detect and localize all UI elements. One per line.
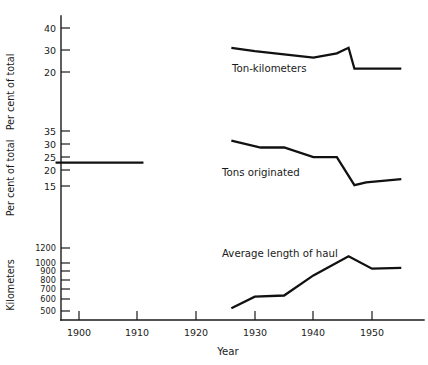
series-line-average-length-of-haul bbox=[231, 256, 401, 308]
y-tick-label-25: 25 bbox=[44, 152, 56, 163]
y-tick-label-20: 20 bbox=[44, 67, 56, 78]
x-tick-labels: 1900 1910 1920 1930 1940 1950 bbox=[67, 327, 384, 338]
y-tick-label-30: 30 bbox=[44, 45, 56, 56]
y-ticks-panel3: 1200 1000 900 800 700 600 500 bbox=[35, 243, 70, 316]
y-ticks-panel1: 40 30 20 bbox=[44, 23, 70, 78]
y-ticks-panel2: 35 30 25 20 15 bbox=[44, 126, 70, 192]
y-tick-label-1200: 1200 bbox=[35, 243, 56, 253]
series-line-tons-originated bbox=[231, 141, 401, 186]
series-label-average-length-of-haul: Average length of haul bbox=[222, 248, 338, 259]
y-tick-label-35: 35 bbox=[44, 126, 56, 137]
y-tick-label-40: 40 bbox=[44, 23, 56, 34]
chart-svg: Per cent of total Per cent of total Kilo… bbox=[0, 0, 428, 365]
y-axis-title-panel1: Per cent of total bbox=[5, 54, 16, 131]
y-tick-label-500: 500 bbox=[40, 306, 56, 316]
x-tick-label-1900: 1900 bbox=[67, 327, 91, 338]
y-axis-title-panel3: Kilometers bbox=[5, 259, 16, 310]
series-label-tons-originated: Tons originated bbox=[221, 167, 300, 178]
x-ticks bbox=[79, 311, 372, 320]
chart-container: Per cent of total Per cent of total Kilo… bbox=[0, 0, 428, 365]
x-tick-label-1920: 1920 bbox=[184, 327, 208, 338]
y-tick-label-15: 15 bbox=[44, 181, 56, 192]
x-tick-label-1950: 1950 bbox=[360, 327, 384, 338]
y-axis-title-panel2: Per cent of total bbox=[5, 140, 16, 217]
series-label-ton-kilometers: Ton-kilometers bbox=[231, 63, 307, 74]
y-tick-label-700: 700 bbox=[40, 284, 56, 294]
x-tick-label-1940: 1940 bbox=[301, 327, 325, 338]
x-tick-label-1930: 1930 bbox=[243, 327, 267, 338]
y-tick-label-30b: 30 bbox=[44, 139, 56, 150]
x-axis-title: Year bbox=[216, 346, 239, 357]
x-tick-label-1910: 1910 bbox=[125, 327, 149, 338]
y-tick-label-20b: 20 bbox=[44, 165, 56, 176]
y-tick-label-600: 600 bbox=[40, 294, 56, 304]
